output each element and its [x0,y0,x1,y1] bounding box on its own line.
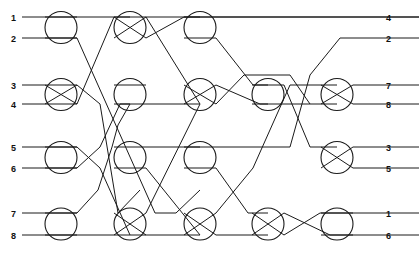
wire-segment [216,168,268,213]
switching-network-figure: 1234567842783516 [0,0,419,254]
wire-segment [77,104,130,213]
wire-segment [77,104,130,168]
node-c5-r78 [321,208,353,240]
node-c2-r34 [114,79,146,111]
wire-segment [146,168,200,235]
wire-segment [216,38,268,85]
switch-node-circle[interactable] [45,142,77,174]
output-port-label-5: 3 [386,143,391,153]
wire-segment [216,38,419,147]
input-port-label-6: 6 [11,164,16,174]
switch-node-circle[interactable] [45,12,77,44]
node-c5-r34 [321,79,353,111]
wires-layer [22,17,419,235]
input-port-label-4: 4 [11,100,16,110]
output-port-label-1: 4 [386,13,391,23]
wire-segment [77,38,200,213]
input-port-label-5: 5 [11,143,16,153]
input-port-label-2: 2 [11,34,16,44]
node-c3-r12 [184,12,216,44]
output-port-label-7: 1 [386,209,391,219]
node-c1-r12 [45,12,77,44]
output-port-label-6: 5 [386,164,391,174]
switch-nodes-layer [45,12,353,241]
switch-node-circle[interactable] [184,12,216,44]
output-port-label-3: 7 [386,81,391,91]
input-port-label-8: 8 [11,231,16,241]
wire-segment [146,104,200,213]
wire-segment [216,85,268,104]
port-labels-layer: 1234567842783516 [11,13,391,241]
input-port-label-3: 3 [11,81,16,91]
node-c4-r34 [252,79,284,111]
network-diagram-canvas: 1234567842783516 [0,0,419,254]
node-c2-r12 [114,12,146,44]
output-port-label-8: 6 [386,231,391,241]
node-c3-r34 [184,79,216,111]
output-port-label-2: 2 [386,34,391,44]
wire-segment [284,85,337,147]
node-c1-r78 [45,208,77,240]
switch-node-circle[interactable] [252,79,284,111]
switch-node-circle[interactable] [114,79,146,111]
input-port-label-7: 7 [11,209,16,219]
wire-segment [284,213,353,235]
wire-segment [146,17,200,38]
node-c5-r56 [321,142,353,174]
node-c1-r56 [45,142,77,174]
wire-segment [146,17,200,104]
wire-segment [284,213,353,235]
output-port-label-4: 8 [386,100,391,110]
switch-node-circle[interactable] [184,142,216,174]
node-c3-r56 [184,142,216,174]
input-port-label-1: 1 [11,13,16,23]
node-c1-r34 [45,79,77,111]
